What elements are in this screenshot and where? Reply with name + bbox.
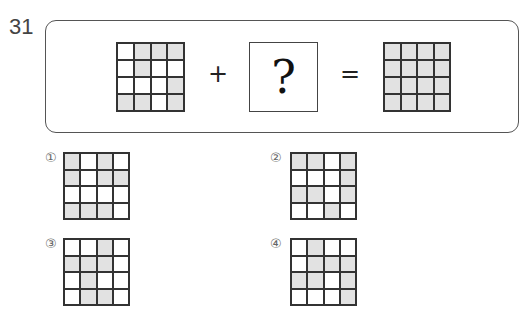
grid-cell — [97, 170, 113, 187]
grid-cell — [134, 43, 151, 60]
grid-cell — [291, 203, 307, 220]
grid-cell — [97, 289, 113, 306]
grid-cell — [291, 153, 307, 170]
grid-cell — [340, 170, 356, 187]
grid-cell — [291, 272, 307, 289]
grid-cell — [307, 289, 323, 306]
grid-cell — [384, 43, 401, 60]
grid-cell — [113, 239, 129, 256]
question-number: 31 — [9, 14, 33, 40]
grid-cell — [167, 77, 184, 94]
grid-cell — [80, 170, 96, 187]
grid-cell — [113, 256, 129, 273]
grid-cell — [340, 239, 356, 256]
grid-cell — [324, 239, 340, 256]
grid-cell — [117, 60, 134, 77]
plus-sign: + — [208, 60, 228, 88]
grid-cell — [291, 186, 307, 203]
grid-cell — [97, 256, 113, 273]
grid-cell — [307, 153, 323, 170]
grid-cell — [291, 170, 307, 187]
grid-cell — [324, 153, 340, 170]
grid-cell — [80, 289, 96, 306]
grid-cell — [64, 256, 80, 273]
grid-cell — [324, 170, 340, 187]
grid-cell — [64, 153, 80, 170]
grid-cell — [117, 43, 134, 60]
grid-cell — [64, 239, 80, 256]
grid-cell — [324, 203, 340, 220]
grid-cell — [64, 186, 80, 203]
grid-cell — [324, 256, 340, 273]
grid-cell — [151, 77, 168, 94]
grid-cell — [151, 43, 168, 60]
option-3-grid[interactable] — [63, 238, 130, 306]
grid-cell — [340, 186, 356, 203]
grid-cell — [80, 153, 96, 170]
option-2-grid[interactable] — [290, 152, 357, 220]
grid-cell — [113, 186, 129, 203]
grid-cell — [113, 289, 129, 306]
grid-cell — [64, 272, 80, 289]
grid-cell — [151, 94, 168, 111]
grid-cell — [80, 203, 96, 220]
grid-cell — [401, 60, 418, 77]
grid-cell — [324, 289, 340, 306]
grid-cell — [117, 94, 134, 111]
grid-cell — [384, 94, 401, 111]
grid-cell — [340, 289, 356, 306]
grid-cell — [401, 77, 418, 94]
grid-cell — [291, 239, 307, 256]
grid-cell — [97, 203, 113, 220]
grid-cell — [384, 77, 401, 94]
grid-cell — [384, 60, 401, 77]
grid-cell — [417, 43, 434, 60]
grid-cell — [434, 94, 451, 111]
grid-cell — [80, 239, 96, 256]
grid-cell — [167, 60, 184, 77]
grid-cell — [401, 43, 418, 60]
unknown-box: ? — [249, 42, 318, 112]
grid-cell — [417, 60, 434, 77]
grid-cell — [307, 203, 323, 220]
option-1-grid[interactable] — [63, 152, 130, 220]
grid-cell — [307, 170, 323, 187]
grid-cell — [417, 94, 434, 111]
grid-cell — [340, 153, 356, 170]
grid-cell — [307, 239, 323, 256]
grid-cell — [340, 256, 356, 273]
grid-cell — [434, 43, 451, 60]
grid-cell — [434, 60, 451, 77]
option-3-label[interactable]: ③ — [45, 236, 57, 251]
grid-cell — [64, 170, 80, 187]
equals-sign: = — [340, 60, 360, 88]
grid-cell — [340, 272, 356, 289]
grid-cell — [401, 94, 418, 111]
grid-cell — [291, 256, 307, 273]
grid-cell — [134, 94, 151, 111]
option-1-label[interactable]: ① — [45, 150, 57, 165]
grid-cell — [97, 153, 113, 170]
grid-cell — [134, 77, 151, 94]
result-pattern-grid — [383, 42, 451, 112]
option-4-label[interactable]: ④ — [270, 236, 282, 251]
grid-cell — [113, 170, 129, 187]
grid-cell — [80, 272, 96, 289]
option-4-grid[interactable] — [290, 238, 357, 306]
question-mark: ? — [271, 50, 296, 104]
grid-cell — [97, 239, 113, 256]
grid-cell — [324, 186, 340, 203]
grid-cell — [113, 153, 129, 170]
grid-cell — [134, 60, 151, 77]
grid-cell — [97, 272, 113, 289]
grid-cell — [113, 272, 129, 289]
grid-cell — [307, 256, 323, 273]
grid-cell — [324, 272, 340, 289]
grid-cell — [113, 203, 129, 220]
grid-cell — [80, 256, 96, 273]
grid-cell — [64, 203, 80, 220]
grid-cell — [167, 94, 184, 111]
grid-cell — [340, 203, 356, 220]
grid-cell — [97, 186, 113, 203]
option-2-label[interactable]: ② — [270, 150, 282, 165]
